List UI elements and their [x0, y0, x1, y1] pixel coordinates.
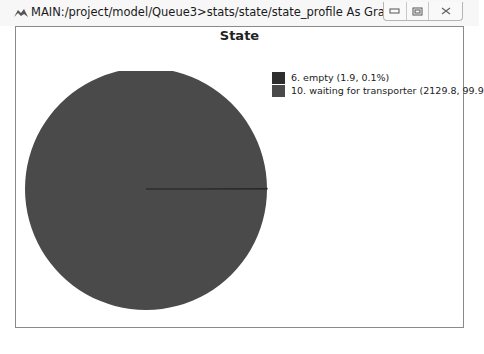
- close-button[interactable]: [429, 2, 462, 20]
- chart-panel: State 6. empty (1.9, 0.1%) 10. waiting f…: [15, 26, 464, 328]
- window-title: MAIN:/project/model/Queue3>stats/state/s…: [31, 5, 399, 19]
- app-logo-icon: [14, 8, 28, 18]
- minimize-button[interactable]: [384, 2, 407, 20]
- legend-label-empty: 6. empty (1.9, 0.1%): [291, 72, 389, 83]
- legend-swatch-waiting: [272, 85, 285, 97]
- maximize-icon: [412, 7, 423, 16]
- legend-item-empty: 6. empty (1.9, 0.1%): [272, 71, 484, 84]
- pie-slice-waiting: [25, 71, 267, 310]
- legend-swatch-empty: [272, 72, 285, 84]
- window-titlebar[interactable]: MAIN:/project/model/Queue3>stats/state/s…: [0, 0, 479, 26]
- legend-label-waiting: 10. waiting for transporter (2129.8, 99.…: [291, 85, 484, 96]
- minimize-icon: [389, 7, 400, 15]
- maximize-button[interactable]: [407, 2, 430, 20]
- legend-item-waiting: 10. waiting for transporter (2129.8, 99.…: [272, 84, 484, 97]
- close-icon: [441, 7, 451, 15]
- pie-chart: [22, 71, 270, 311]
- chart-legend: 6. empty (1.9, 0.1%) 10. waiting for tra…: [272, 71, 484, 97]
- chart-title: State: [16, 28, 463, 43]
- window-controls: [383, 2, 463, 21]
